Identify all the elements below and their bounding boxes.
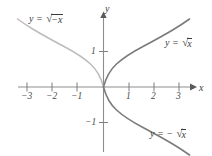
curve-label-sqrt-x: y = √x xyxy=(165,37,192,48)
x-axis-arrowhead xyxy=(190,84,197,91)
radical-group: √x xyxy=(181,37,192,48)
radicand: x xyxy=(187,38,192,49)
curve-label-lhs: y = xyxy=(165,37,179,48)
y-axis-name: y xyxy=(105,4,109,14)
radicand: x xyxy=(181,129,186,140)
x-tick-label-1: 1 xyxy=(126,92,131,102)
x-tick-label--2: −2 xyxy=(46,92,57,102)
radical-group: √x xyxy=(175,128,186,139)
x-tick-label-2: 2 xyxy=(151,92,156,102)
radical-group: √−x xyxy=(45,13,63,24)
curve-sqrt-x xyxy=(104,19,190,87)
x-tick-label-3: 3 xyxy=(176,92,181,102)
math-figure-square-root-graphs: −3 −2 −1 1 2 3 1 −1 x y y = √−x y = √x y… xyxy=(0,0,212,156)
curve-label-lhs: y = − xyxy=(150,128,173,139)
y-tick-label--1: −1 xyxy=(85,118,96,128)
x-tick-label--3: −3 xyxy=(21,92,32,102)
curve-label-neg-sqrt-x: y = − √x xyxy=(150,128,186,139)
x-axis-name: x xyxy=(199,83,203,93)
y-tick-label-1: 1 xyxy=(91,47,96,57)
x-tick-label--1: −1 xyxy=(71,92,82,102)
radicand: −x xyxy=(51,14,63,25)
curve-label-lhs: y = xyxy=(29,13,43,24)
curve-label-sqrt-neg-x: y = √−x xyxy=(29,13,63,24)
